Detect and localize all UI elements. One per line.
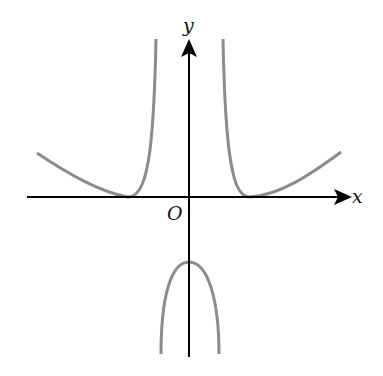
function-graph: x y O xyxy=(0,0,383,376)
graph-svg: x y O xyxy=(0,0,383,376)
y-axis-label: y xyxy=(182,14,194,36)
curve-left-branch xyxy=(37,39,156,197)
origin-label: O xyxy=(167,202,183,224)
x-axis-label: x xyxy=(352,185,363,207)
curve-right-branch xyxy=(223,39,341,197)
